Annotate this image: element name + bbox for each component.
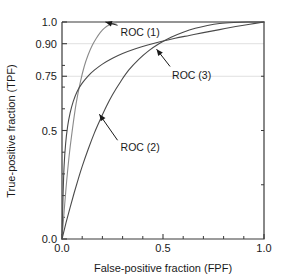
x-tick-label: 1.0 — [256, 242, 271, 254]
roc-curve-roc-3 — [62, 22, 264, 239]
curve-label-roc-3: ROC (3) — [172, 69, 211, 81]
roc-chart-svg: 0.00.51.00.00.50.750.901.0 ROC (1)ROC (2… — [0, 0, 284, 280]
roc-curves — [62, 22, 264, 239]
roc-curve-roc-1 — [62, 22, 264, 239]
y-tick-label: 1.0 — [42, 16, 57, 28]
roc-curve-roc-2 — [62, 22, 264, 239]
curve-label-roc-1: ROC (1) — [121, 26, 160, 38]
axis-ticks — [62, 22, 264, 239]
y-tick-label: 0.5 — [42, 125, 57, 137]
y-axis-title: True-positive fraction (TPF) — [5, 64, 17, 197]
roc-chart-figure: 0.00.51.00.00.50.750.901.0 ROC (1)ROC (2… — [0, 0, 284, 280]
y-tick-label: 0.90 — [36, 38, 57, 50]
x-axis-title: False-positive fraction (FPF) — [94, 262, 232, 274]
axes-frame — [62, 22, 264, 239]
curve-annotations: ROC (1)ROC (2)ROC (3) — [99, 21, 211, 153]
y-tick-label: 0.0 — [42, 233, 57, 245]
plot-frame — [62, 22, 264, 239]
tick-labels: 0.00.51.00.00.50.750.901.0 — [36, 16, 272, 254]
annotation-arrowhead-roc-3 — [157, 49, 163, 56]
x-tick-label: 0.5 — [155, 242, 170, 254]
curve-label-roc-2: ROC (2) — [121, 141, 160, 153]
y-tick-label: 0.75 — [36, 70, 57, 82]
